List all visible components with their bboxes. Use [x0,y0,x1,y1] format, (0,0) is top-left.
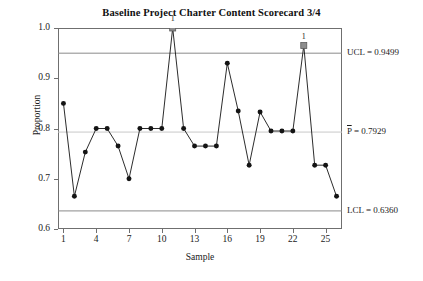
x-tick-label: 19 [248,234,272,244]
y-tick-mark [54,78,58,79]
x-tick-label: 1 [51,234,75,244]
y-tick-label: 0.7 [22,173,50,183]
data-point[interactable] [127,176,132,181]
x-tick-mark [195,229,196,233]
y-tick-label: 0.9 [22,72,50,82]
data-point[interactable] [61,101,66,106]
data-point[interactable] [148,126,153,131]
data-point[interactable] [192,144,197,149]
data-point[interactable] [159,126,164,131]
plot-canvas [58,28,342,229]
data-point-out-of-control[interactable] [170,28,176,31]
y-tick-label: 0.6 [22,223,50,233]
x-tick-mark [162,229,163,233]
y-tick-label: 1.0 [22,22,50,32]
control-chart: Baseline Project Charter Content Scoreca… [0,0,423,281]
control-limit-label-cl: P = 0.7929 [347,126,386,136]
data-point[interactable] [105,126,110,131]
y-tick-label: 0.8 [22,123,50,133]
data-point[interactable] [334,194,339,199]
data-point[interactable] [203,144,208,149]
data-point[interactable] [312,163,317,168]
data-point[interactable] [137,126,142,131]
chart-title: Baseline Project Charter Content Scoreca… [0,7,423,18]
x-tick-mark [129,229,130,233]
y-tick-mark [54,28,58,29]
y-tick-mark [54,179,58,180]
data-point-out-of-control[interactable] [301,43,307,49]
data-point[interactable] [83,150,88,155]
data-point[interactable] [214,144,219,149]
data-point[interactable] [323,163,328,168]
data-point[interactable] [181,126,186,131]
data-point[interactable] [247,163,252,168]
data-point[interactable] [94,126,99,131]
x-tick-mark [326,229,327,233]
y-axis-label: Proportion [32,70,42,160]
data-point[interactable] [258,109,263,114]
data-point[interactable] [225,61,230,66]
x-tick-label: 22 [281,234,305,244]
x-tick-label: 16 [215,234,239,244]
control-limit-label-ucl: UCL = 0.9499 [347,47,399,57]
x-tick-label: 25 [314,234,338,244]
x-tick-label: 4 [84,234,108,244]
x-tick-label: 7 [117,234,141,244]
data-point[interactable] [269,129,274,134]
x-tick-mark [96,229,97,233]
x-tick-mark [227,229,228,233]
x-axis-label: Sample [58,252,342,262]
out-of-control-marker-label: 1 [298,32,310,41]
data-point[interactable] [116,144,121,149]
x-tick-mark [260,229,261,233]
data-point[interactable] [236,108,241,113]
x-tick-mark [63,229,64,233]
x-tick-mark [293,229,294,233]
data-point[interactable] [290,129,295,134]
data-point[interactable] [279,129,284,134]
out-of-control-marker-label: 1 [167,14,179,23]
x-tick-label: 13 [183,234,207,244]
y-tick-mark [54,129,58,130]
y-tick-mark [54,229,58,230]
control-limit-label-lcl: LCL = 0.6360 [347,205,398,215]
data-point[interactable] [72,194,77,199]
x-tick-label: 10 [150,234,174,244]
